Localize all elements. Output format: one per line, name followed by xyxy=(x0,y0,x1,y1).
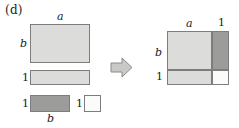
square-unit-height-label: 1 xyxy=(76,98,83,109)
rectangle-ab-width-label: a xyxy=(57,11,64,22)
right-group xyxy=(167,31,229,85)
cell-ab xyxy=(167,31,212,70)
rectangle-b-width-label: b xyxy=(47,113,54,124)
rectangle-ab xyxy=(30,24,90,63)
cell-1 xyxy=(212,70,229,85)
rectangle-b xyxy=(30,95,70,112)
composite-height-label-b: b xyxy=(155,47,162,58)
right-arrow-icon xyxy=(110,57,133,82)
composite-width-label-a: a xyxy=(186,18,193,29)
cell-b xyxy=(212,31,229,70)
panel-label: (d) xyxy=(5,3,23,17)
rectangle-a-height-label: 1 xyxy=(22,72,29,83)
figure-panel-d: (d) a b 1 1 b 1 a 1 xyxy=(0,0,239,128)
composite-height-label-1: 1 xyxy=(156,71,163,82)
rectangle-b-height-label: 1 xyxy=(22,98,29,109)
square-unit xyxy=(84,95,101,112)
rectangle-ab-height-label: b xyxy=(20,38,27,49)
cell-a xyxy=(167,70,212,85)
rectangle-a xyxy=(30,70,90,85)
composite-width-label-1: 1 xyxy=(218,17,225,28)
